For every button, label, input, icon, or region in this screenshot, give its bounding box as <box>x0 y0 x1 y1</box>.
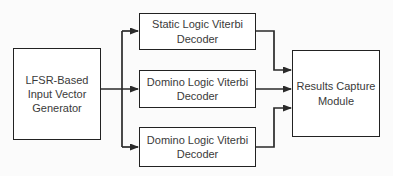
block-domino-logic-viterbi-decoder-1: Domino Logic Viterbi Decoder <box>139 70 256 108</box>
block-diagram: LFSR-Based Input Vector Generator Static… <box>0 0 393 176</box>
block-lfsr-input-vector-generator: LFSR-Based Input Vector Generator <box>13 48 101 140</box>
block-label-static-decoder: Static Logic Viterbi Decoder <box>152 17 243 46</box>
arrow-domino-decoder-2-to-results <box>255 108 291 147</box>
block-label-domino-decoder-1: Domino Logic Viterbi Decoder <box>147 75 248 104</box>
arrow-static-decoder-to-results <box>255 31 291 70</box>
block-label-domino-decoder-2: Domino Logic Viterbi Decoder <box>147 133 248 162</box>
block-label-generator: LFSR-Based Input Vector Generator <box>26 73 89 116</box>
block-static-logic-viterbi-decoder: Static Logic Viterbi Decoder <box>139 13 256 50</box>
block-label-results-capture: Results Capture Module <box>297 79 376 108</box>
block-domino-logic-viterbi-decoder-2: Domino Logic Viterbi Decoder <box>139 127 256 167</box>
block-results-capture-module: Results Capture Module <box>292 50 380 137</box>
